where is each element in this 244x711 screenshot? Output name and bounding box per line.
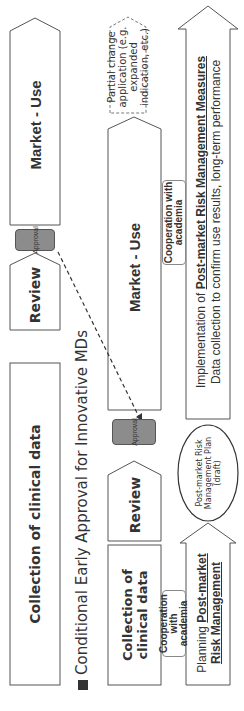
partial-change-box: Partial change application (e.g. expande… bbox=[108, 23, 148, 111]
cooperation-label-2: Cooperation with academia bbox=[164, 181, 184, 264]
implementation-emph: Post-market Risk Management Measures bbox=[194, 56, 208, 289]
risk-plan-ellipse: Post-market Risk Management Plan (draft) bbox=[184, 435, 232, 511]
cooperation-label-1: Cooperation with academia bbox=[159, 591, 189, 656]
standard-market-label: Market - Use bbox=[27, 80, 44, 169]
standard-collection-label: Collection of clinical data bbox=[27, 424, 43, 624]
conditional-approval-diagram: Collection of clinical data Review Appro… bbox=[0, 0, 244, 711]
partial-change-label: Partial change application (e.g. expande… bbox=[106, 23, 150, 111]
conditional-collection-label: Collection of clinical data bbox=[120, 545, 150, 685]
standard-approval-label: Approval bbox=[32, 226, 39, 254]
diagram-title: Conditional Early Approval for Innovativ… bbox=[73, 330, 91, 675]
conditional-market-label: Market - Use bbox=[126, 223, 143, 312]
implementation-line2: Data collection to confirm use results, … bbox=[209, 60, 224, 384]
conditional-review-label: Review bbox=[127, 477, 143, 534]
planning-emph-2: Risk Management bbox=[209, 562, 223, 664]
conditional-market-arrow: Market - Use bbox=[108, 125, 161, 410]
standard-collection-box: Collection of clinical data bbox=[10, 363, 60, 685]
implementation-prefix: Implementation of bbox=[194, 289, 208, 388]
diagram-title-text: Conditional Early Approval for Innovativ… bbox=[73, 330, 91, 675]
conditional-collection-box: Collection of clinical data bbox=[108, 545, 161, 685]
standard-review-label: Review bbox=[27, 267, 43, 324]
cooperation-academia-box-2: Cooperation with academia bbox=[162, 180, 186, 265]
planning-prefix: Planning bbox=[195, 623, 209, 673]
implementation-arrow: Implementation of Post-market Risk Manag… bbox=[188, 27, 230, 417]
cooperation-academia-box-1: Cooperation with academia bbox=[162, 590, 186, 657]
conditional-approval-box: Approval bbox=[112, 419, 156, 445]
standard-review-arrow: Review bbox=[10, 260, 60, 330]
conditional-approval-label: Approval bbox=[131, 418, 138, 446]
planning-arrow: Planning Post-market Risk Management bbox=[188, 543, 230, 683]
planning-emph-1: Post-market bbox=[195, 553, 209, 622]
conditional-review-arrow: Review bbox=[108, 469, 161, 541]
standard-approval-box: Approval bbox=[15, 229, 55, 251]
risk-plan-label: Post-market Risk Management Plan (draft) bbox=[195, 435, 222, 511]
standard-market-arrow: Market - Use bbox=[10, 25, 60, 225]
